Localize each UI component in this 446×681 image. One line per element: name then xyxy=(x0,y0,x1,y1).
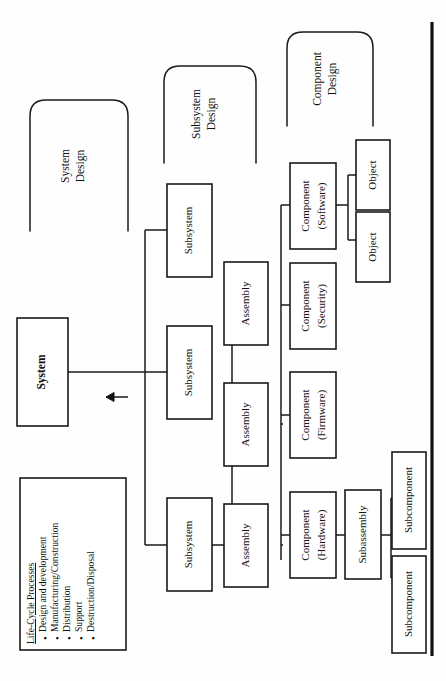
node-subsystem-1[interactable]: Subsystem xyxy=(167,184,212,277)
brace-system-design-line1: System xyxy=(59,149,72,183)
brace-system-design: System Design xyxy=(30,100,128,231)
brace-component-design: Component Design xyxy=(287,32,373,126)
lifecycle-title: Life-Cycle Processes xyxy=(25,562,36,644)
node-component-software-label-line2: (Software) xyxy=(315,182,328,229)
brace-subsystem-design-line2: Design xyxy=(205,97,218,130)
node-component-security[interactable]: Component (Security) xyxy=(290,263,336,349)
node-assembly-3-label: Assembly xyxy=(239,523,251,568)
node-object-1-label: Object xyxy=(366,160,378,189)
node-subcomponent-2-label: Subcomponent xyxy=(402,571,414,637)
node-assembly-2[interactable]: Assembly xyxy=(224,383,268,466)
node-subcomponent-1[interactable]: Subcomponent xyxy=(392,452,426,549)
node-object-1[interactable]: Object xyxy=(356,140,390,210)
node-assembly-1-label: Assembly xyxy=(239,281,251,326)
lifecycle-bullet-3-icon: • xyxy=(63,636,75,640)
lifecycle-item-5: Destruction/Disposal xyxy=(85,551,96,632)
node-component-hardware-label-line1: Component xyxy=(299,509,311,560)
node-component-security-label-line1: Component xyxy=(299,280,311,331)
brace-component-design-line2: Design xyxy=(326,62,339,95)
node-object-2-label: Object xyxy=(366,232,378,261)
node-assembly-1[interactable]: Assembly xyxy=(224,262,268,345)
node-subsystem-2[interactable]: Subsystem xyxy=(167,326,212,419)
node-subcomponent-1-label: Subcomponent xyxy=(402,467,414,533)
node-subsystem-3-label: Subsystem xyxy=(182,520,194,568)
node-system[interactable]: System xyxy=(17,318,68,426)
node-assembly-2-label: Assembly xyxy=(239,402,251,447)
node-system-label: System xyxy=(35,354,48,390)
lifecycle-item-1: Design and development xyxy=(37,536,48,632)
node-subsystem-2-label: Subsystem xyxy=(182,348,194,396)
brace-subsystem-design: Subsystem Design xyxy=(164,66,256,163)
node-component-security-label-line2: (Security) xyxy=(315,284,328,328)
lifecycle-arrowhead-icon xyxy=(106,393,114,402)
node-component-hardware[interactable]: Component (Hardware) xyxy=(290,492,336,578)
lifecycle-item-2: Manufacturing/Construction xyxy=(49,523,60,632)
system-hierarchy-diagram: System Subsystem Subsystem Subsystem Ass… xyxy=(0,0,446,681)
node-subassembly[interactable]: Subassembly xyxy=(345,490,381,579)
lifecycle-bullet-1-icon: • xyxy=(39,636,51,640)
brace-system-design-line2: Design xyxy=(74,149,87,182)
node-subcomponent-2[interactable]: Subcomponent xyxy=(392,556,426,653)
figure-page: System Subsystem Subsystem Subsystem Ass… xyxy=(0,0,446,681)
lifecycle-bullet-2-icon: • xyxy=(51,636,63,640)
brace-subsystem-design-line1: Subsystem xyxy=(190,89,203,139)
lifecycle-bullet-5-icon: • xyxy=(87,636,99,640)
node-component-firmware-label-line2: (Firmware) xyxy=(315,390,328,440)
lifecycle-item-3: Distribution xyxy=(61,585,72,632)
lifecycle-bullet-4-icon: • xyxy=(75,636,87,640)
node-component-firmware-label-line1: Component xyxy=(299,389,311,440)
node-subsystem-1-label: Subsystem xyxy=(182,206,194,254)
node-component-software[interactable]: Component (Software) xyxy=(290,163,336,249)
node-subassembly-label: Subassembly xyxy=(356,505,368,564)
lifecycle-processes-box[interactable]: Life-Cycle Processes • Design and develo… xyxy=(20,478,126,650)
brace-component-design-line1: Component xyxy=(311,51,324,105)
lifecycle-item-4: Support xyxy=(73,601,84,632)
node-object-2[interactable]: Object xyxy=(356,212,390,282)
node-assembly-3[interactable]: Assembly xyxy=(224,504,268,587)
node-subsystem-3[interactable]: Subsystem xyxy=(167,498,212,591)
node-component-software-label-line1: Component xyxy=(299,180,311,231)
node-component-hardware-label-line2: (Hardware) xyxy=(315,509,328,560)
node-component-firmware[interactable]: Component (Firmware) xyxy=(290,372,336,458)
